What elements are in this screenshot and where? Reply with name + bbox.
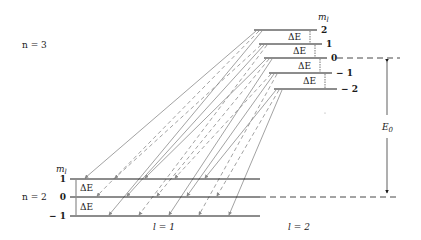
energy-levels: 2ΔE1ΔE0ΔE− 1ΔE− 21ΔE0ΔE− 1 bbox=[49, 25, 358, 221]
transition-line bbox=[85, 31, 256, 178]
lower-shell-label: n = 2 bbox=[22, 192, 47, 202]
transition-lines bbox=[85, 31, 282, 215]
transition-line bbox=[187, 74, 274, 196]
e0-label: E0 bbox=[381, 122, 394, 134]
upper-l-label: l = 2 bbox=[288, 222, 310, 232]
transition-line bbox=[217, 90, 279, 196]
transition-line bbox=[127, 45, 264, 196]
zeeman-splitting-diagram: 2ΔE1ΔE0ΔE− 1ΔE− 21ΔE0ΔE− 1 n = 3 n = 2 m… bbox=[0, 0, 421, 240]
transition-line bbox=[229, 90, 282, 215]
transition-line bbox=[97, 31, 259, 196]
transition-line bbox=[139, 45, 267, 215]
upper-shell-label: n = 3 bbox=[22, 40, 47, 50]
delta-e-label: ΔE bbox=[80, 183, 93, 193]
lower-ml-value: 0 bbox=[60, 192, 66, 202]
delta-e-label: ΔE bbox=[288, 32, 301, 42]
delta-e-label: ΔE bbox=[293, 46, 306, 56]
transition-line bbox=[169, 59, 272, 215]
transition-line bbox=[157, 59, 269, 196]
upper-ml-value: 1 bbox=[326, 39, 332, 49]
lower-l-label: l = 1 bbox=[153, 222, 175, 232]
delta-e-label: ΔE bbox=[303, 76, 316, 86]
upper-ml-header: ml bbox=[318, 12, 329, 24]
delta-e-label: ΔE bbox=[298, 61, 311, 71]
upper-ml-value: 2 bbox=[321, 25, 327, 35]
speck bbox=[324, 112, 325, 113]
upper-ml-value: 0 bbox=[331, 53, 337, 63]
upper-ml-value: − 2 bbox=[341, 84, 358, 94]
lower-ml-value: − 1 bbox=[49, 211, 66, 221]
upper-ml-value: − 1 bbox=[336, 68, 353, 78]
transition-line bbox=[205, 90, 276, 178]
delta-e-label: ΔE bbox=[80, 202, 93, 212]
